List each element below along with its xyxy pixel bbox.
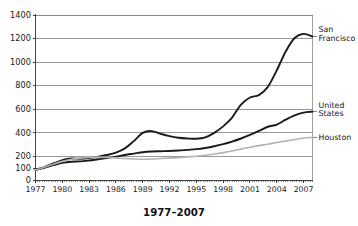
chart-canvas: 0100200400600800100012001400 19771980198… [0, 0, 358, 226]
x-tick-label: 1983 [79, 185, 99, 194]
y-tick-label: 200 [15, 151, 31, 161]
y-tick-label: 1200 [10, 33, 31, 43]
price-index-line-chart: 0100200400600800100012001400 19771980198… [0, 0, 358, 226]
y-tick-label: 800 [15, 80, 31, 90]
x-axis-tick-labels: 1977198019831986198919921995199820012004… [26, 185, 314, 194]
y-tick-label: 100 [15, 163, 31, 173]
x-tick-label: 1995 [186, 185, 206, 194]
x-tick-label: 1992 [160, 185, 180, 194]
y-tick-label: 600 [15, 104, 31, 114]
series-label-united-states: States [319, 109, 344, 118]
y-tick-label: 400 [15, 128, 31, 138]
series-label-houston: Houston [319, 133, 352, 142]
data-series [36, 34, 313, 170]
series-labels: SanFranciscoUnitedStatesHouston [313, 25, 356, 141]
x-tick-label: 2001 [240, 185, 260, 194]
x-axis-title: 1977–2007 [143, 207, 205, 218]
y-tick-label: 1400 [10, 10, 31, 20]
x-tick-label: 2007 [294, 185, 314, 194]
y-axis-tick-labels: 0100200400600800100012001400 [10, 10, 31, 185]
x-tick-label: 1980 [52, 185, 72, 194]
x-tick-label: 1986 [106, 185, 126, 194]
y-tick-label: 0 [26, 175, 31, 185]
x-tick-label: 2004 [267, 185, 287, 194]
x-tick-label: 1977 [26, 185, 46, 194]
x-axis-ticks [36, 180, 313, 183]
x-tick-label: 1989 [133, 185, 153, 194]
series-line-san-francisco [36, 34, 313, 170]
series-line-united-states [36, 112, 313, 170]
x-tick-label: 1998 [213, 185, 233, 194]
gridlines [36, 15, 313, 156]
series-label-san-francisco: Francisco [319, 34, 356, 43]
y-tick-label: 1000 [10, 57, 31, 67]
series-line-houston [36, 137, 313, 170]
